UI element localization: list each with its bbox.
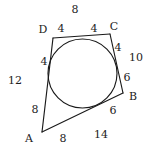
length-label-as-tangent: 8	[32, 104, 39, 115]
length-label-dp-tangent: 4	[58, 23, 65, 34]
length-label-bottom-side-total: 14	[94, 129, 108, 140]
inscribed-circle	[48, 39, 117, 108]
vertex-label-B: B	[129, 91, 137, 102]
length-label-top-side-total: 8	[72, 4, 79, 15]
edge-DC	[53, 34, 110, 38]
length-label-br-tangent: 6	[110, 105, 117, 116]
vertex-label-D: D	[39, 24, 48, 35]
vertex-label-A: A	[25, 133, 33, 144]
length-label-qb-tangent: 6	[124, 72, 131, 83]
edge-AD	[42, 38, 53, 132]
length-label-left-side-total: 12	[8, 75, 22, 86]
length-label-ra-tangent: 8	[60, 133, 67, 144]
length-label-sd-tangent: 4	[41, 56, 48, 67]
geometry-figure: A B C D 8 4 4 4 10 6 6 14 8 8 12 4	[0, 0, 149, 151]
length-label-right-side-total: 10	[129, 52, 143, 63]
length-label-pc-tangent: 4	[91, 23, 98, 34]
length-label-cq-tangent: 4	[115, 42, 122, 53]
vertex-label-C: C	[110, 21, 118, 32]
quadrilateral-outline	[42, 34, 123, 132]
